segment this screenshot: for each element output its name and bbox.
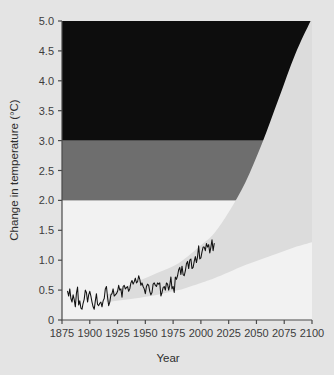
y-tick-label: 4.5 <box>39 45 54 57</box>
y-tick-label: 0.5 <box>39 284 54 296</box>
y-tick-label: 1.0 <box>39 254 54 266</box>
x-tick-label: 1925 <box>105 327 129 339</box>
x-tick-label: 2100 <box>300 327 324 339</box>
y-tick-label: 3.5 <box>39 105 54 117</box>
x-axis-title: Year <box>156 352 179 364</box>
x-tick-label: 2050 <box>244 327 268 339</box>
y-tick-label: 0 <box>48 314 54 326</box>
y-tick-label: 1.5 <box>39 224 54 236</box>
y-tick-label: 2.5 <box>39 165 54 177</box>
x-tick-label: 1950 <box>133 327 157 339</box>
y-axis-title: Change in temperature (°C) <box>8 99 20 241</box>
y-tick-label: 3.0 <box>39 135 54 147</box>
y-tick-label: 4.0 <box>39 75 54 87</box>
x-tick-label: 1900 <box>78 327 102 339</box>
x-tick-label: 1875 <box>50 327 74 339</box>
x-tick-label: 1975 <box>161 327 185 339</box>
temperature-projection-chart: 00.51.01.52.02.53.03.54.04.55.0187519001… <box>0 0 334 375</box>
x-tick-label: 2075 <box>272 327 296 339</box>
y-tick-label: 2.0 <box>39 194 54 206</box>
y-tick-label: 5.0 <box>39 15 54 27</box>
x-tick-label: 2025 <box>216 327 240 339</box>
x-tick-label: 2000 <box>189 327 213 339</box>
